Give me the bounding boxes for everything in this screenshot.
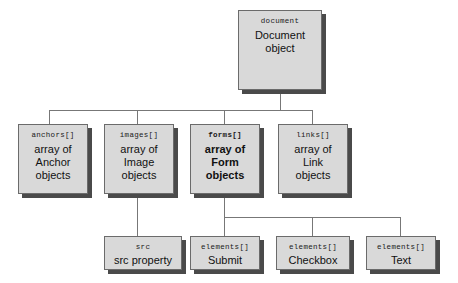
node-images[interactable]: images[] array of Image objects [104,124,174,194]
node-text-code: elements[] [377,242,425,252]
diagram-canvas: document Document object anchors[] array… [0,0,458,283]
node-anchors-code: anchors[] [31,130,74,140]
node-images-desc: array of Image objects [120,143,157,182]
node-checkbox-desc: Checkbox [289,254,338,267]
node-forms[interactable]: forms[] array of Form objects [190,124,260,194]
connector-drop-links [312,110,313,124]
node-document-desc: Document object [255,29,305,55]
connector-drop-anchors [49,110,50,124]
node-anchors[interactable]: anchors[] array of Anchor objects [18,124,88,194]
node-images-code: images[] [120,130,158,140]
connector-forms-stem [224,194,225,217]
connector-document-stem [280,90,281,111]
node-checkbox-code: elements[] [289,242,337,252]
node-links[interactable]: links[] array of Link objects [278,124,348,194]
node-submit-code: elements[] [201,242,249,252]
node-links-desc: array of Link objects [294,143,331,182]
connector-drop-checkbox [312,217,313,236]
node-document-code: document [261,16,299,26]
connector-drop-images [137,110,138,124]
node-anchors-desc: array of Anchor objects [34,143,71,182]
node-src-desc: src property [114,254,172,267]
node-text-desc: Text [391,254,411,267]
node-links-code: links[] [296,130,330,140]
node-text[interactable]: elements[] Text [366,236,436,270]
connector-images-to-src [137,194,138,236]
node-forms-code: forms[] [208,130,242,140]
node-document[interactable]: document Document object [238,10,322,90]
connector-drop-submit [224,217,225,236]
connector-drop-forms [224,110,225,124]
node-forms-desc: array of Form objects [205,143,245,182]
node-checkbox[interactable]: elements[] Checkbox [276,236,350,270]
connector-drop-text [400,217,401,236]
node-submit-desc: Submit [208,254,242,267]
node-src[interactable]: src src property [104,236,182,270]
connector-row2-bus [49,110,313,111]
node-submit[interactable]: elements[] Submit [190,236,260,270]
node-src-code: src [136,242,150,252]
